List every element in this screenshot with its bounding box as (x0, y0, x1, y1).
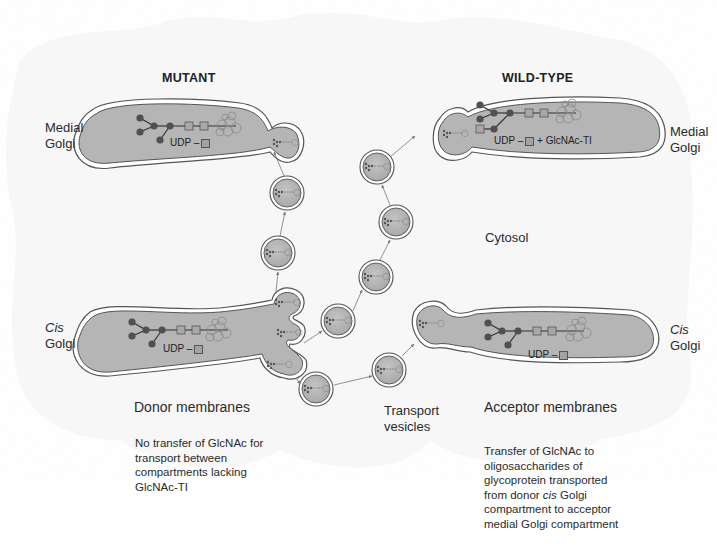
vesicle (360, 150, 394, 184)
udp-sugar-square-icon (194, 345, 203, 354)
vesicle (261, 236, 295, 270)
vesicle (299, 372, 333, 406)
transport-vesicles-label: Transport vesicles (384, 403, 439, 435)
mutant-medial-udp: UDP – (170, 137, 210, 148)
mutant-cis-udp: UDP – (163, 343, 203, 354)
mutant-medial-label: Medial Golgi (45, 120, 83, 152)
mutant-note: No transfer of GlcNAc for transport betw… (135, 436, 265, 494)
udp-sugar-square-icon (559, 351, 568, 360)
vesicle (270, 176, 304, 210)
acceptor-membranes-label: Acceptor membranes (484, 399, 617, 415)
mutant-cis-label: Cis Golgi (45, 320, 75, 352)
udp-sugar-square-icon (525, 137, 534, 146)
vesicle (372, 353, 406, 387)
cytosol-label: Cytosol (485, 230, 528, 246)
wildtype-cis-udp: UDP – (528, 349, 568, 360)
wildtype-medial-label: Medial Golgi (670, 124, 708, 156)
vesicle (379, 205, 413, 239)
vesicle (321, 304, 355, 338)
wildtype-note: Transfer of GlcNAc to oligosaccharides o… (484, 444, 624, 531)
wildtype-cis-label: Cis Golgi (670, 322, 700, 354)
wildtype-heading: WILD-TYPE (502, 70, 573, 86)
donor-membranes-label: Donor membranes (134, 399, 250, 415)
udp-sugar-square-icon (201, 139, 210, 148)
golgi-transport-diagram: MUTANT WILD-TYPE Medial Golgi Medial Gol… (0, 0, 717, 556)
wildtype-medial-udp: UDP – + GlcNAc-TI (494, 135, 592, 146)
mutant-heading: MUTANT (162, 70, 216, 86)
vesicle (359, 260, 393, 294)
